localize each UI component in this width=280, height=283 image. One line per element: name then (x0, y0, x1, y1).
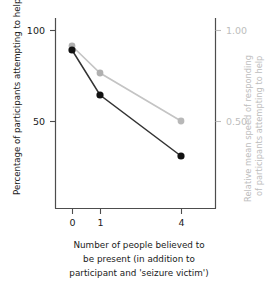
data-point-percentage-0 (68, 46, 75, 53)
data-point-speed-1 (97, 70, 104, 77)
x-axis-title-line1: Number of people believed to (73, 240, 204, 250)
x-axis-title-line2: be present (in addition to (83, 254, 195, 264)
right-ytick-label-1-00: 1.00 (226, 25, 247, 36)
data-point-speed-4 (178, 118, 185, 125)
series-line-percentage (72, 50, 181, 156)
left-axis-title: Percentage of participants attempting to… (12, 0, 22, 195)
x-axis-title-line3: participant and 'seizure victim') (69, 268, 208, 278)
data-point-percentage-1 (96, 91, 103, 98)
left-ytick-label-100: 100 (27, 25, 45, 36)
right-axis-title-line1: Relative mean speed of responding (243, 55, 253, 202)
series-line-speed (72, 46, 181, 121)
left-ytick-label-50: 50 (33, 116, 45, 127)
data-point-percentage-4 (177, 152, 184, 159)
line-chart: 100 50 1.00 0.50 0 1 4 Percentage of par… (0, 0, 280, 283)
xtick-label-4: 4 (178, 217, 184, 228)
right-axis-title-line2: of participants attempting to help (254, 56, 264, 196)
xtick-label-0: 0 (69, 217, 75, 228)
xtick-label-1: 1 (97, 217, 103, 228)
figure-container: 100 50 1.00 0.50 0 1 4 Percentage of par… (0, 0, 280, 283)
